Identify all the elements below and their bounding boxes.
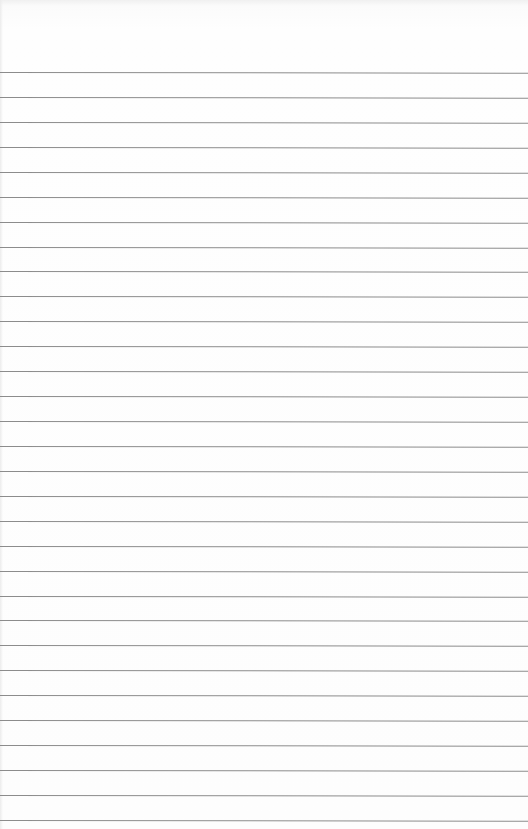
ruled-line <box>0 596 528 598</box>
ruled-line <box>0 645 528 647</box>
ruled-line <box>0 745 528 747</box>
ruled-line <box>0 247 528 249</box>
ruled-line <box>0 222 528 224</box>
ruled-line <box>0 720 528 722</box>
ruled-line <box>0 496 528 498</box>
ruled-line <box>0 546 528 548</box>
ruled-line <box>0 97 528 99</box>
ruled-line <box>0 421 528 423</box>
ruled-line <box>0 820 528 822</box>
ruled-line <box>0 396 528 398</box>
ruled-line <box>0 795 528 797</box>
ruled-line <box>0 471 528 473</box>
ruled-line <box>0 770 528 772</box>
ruled-line <box>0 620 528 622</box>
ruled-line <box>0 321 528 323</box>
ruled-line <box>0 670 528 672</box>
ruled-line <box>0 296 528 298</box>
ruled-line <box>0 197 528 199</box>
ruled-line <box>0 571 528 573</box>
ruled-line <box>0 72 528 74</box>
ruled-line <box>0 371 528 373</box>
ruled-line <box>0 122 528 124</box>
ruled-line <box>0 172 528 174</box>
ruled-line <box>0 521 528 523</box>
ruled-line <box>0 346 528 348</box>
ruled-line <box>0 271 528 273</box>
ruled-line <box>0 695 528 697</box>
paper-edge-shadow <box>0 0 3 829</box>
ruled-line <box>0 147 528 149</box>
ruled-line <box>0 446 528 448</box>
lined-paper-sheet <box>0 0 528 829</box>
